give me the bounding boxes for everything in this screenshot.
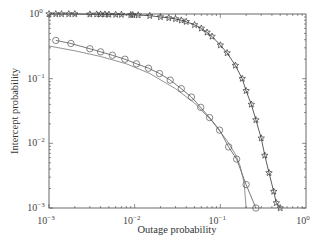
y-tick-label: 10−3 bbox=[27, 201, 45, 213]
axis-ticks bbox=[49, 14, 306, 208]
series-line bbox=[49, 46, 246, 208]
y-tick-label: 10−2 bbox=[27, 136, 45, 148]
x-tick-label: 10−3 bbox=[37, 214, 55, 226]
chart-canvas: 10−310−310−210−210−110−1100100 Outage pr… bbox=[0, 0, 320, 252]
plot-frame bbox=[49, 14, 306, 208]
series-line bbox=[49, 14, 280, 208]
y-tick-label: 10−1 bbox=[27, 72, 45, 84]
series-line bbox=[56, 40, 256, 208]
y-tick-label: 100 bbox=[29, 7, 43, 19]
y-axis-label: Intercept probability bbox=[9, 67, 20, 154]
circle-marker bbox=[53, 37, 59, 43]
plot-lines bbox=[49, 14, 280, 208]
x-axis-label: Outage probability bbox=[137, 224, 217, 235]
tick-labels: 10−310−310−210−210−110−1100100 bbox=[27, 7, 310, 226]
x-tick-label: 100 bbox=[296, 214, 310, 226]
plot-markers bbox=[46, 11, 284, 212]
